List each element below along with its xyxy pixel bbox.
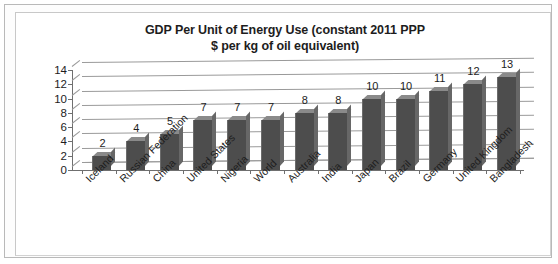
chart-page: GDP Per Unit of Energy Use (constant 201… (0, 0, 558, 264)
bar-value-label: 8 (302, 94, 308, 106)
bar-value-label: 2 (100, 137, 106, 149)
y-axis-tick-label: 10 (45, 94, 67, 104)
bar-side-face (381, 90, 385, 166)
bar-value-label: 8 (335, 94, 341, 106)
x-axis-tick-mark (82, 170, 83, 174)
y-axis-tick-mark (68, 127, 73, 128)
x-axis-tick-mark (183, 170, 184, 174)
x-axis-tick-mark (116, 170, 117, 174)
bar-value-label: 4 (133, 122, 139, 134)
y-axis-tick-label: 14 (45, 65, 67, 75)
x-axis-tick-mark (419, 170, 420, 174)
y-axis-tick-label: 12 (45, 79, 67, 89)
x-axis-tick-mark (284, 170, 285, 174)
bar-value-label: 7 (201, 101, 207, 113)
bar-value-label: 13 (501, 58, 513, 70)
bar-value-label: 12 (467, 65, 479, 77)
bar-value-label: 7 (234, 101, 240, 113)
gridline (82, 72, 534, 77)
x-axis-tick-mark (385, 170, 386, 174)
x-axis-tick-mark (486, 170, 487, 174)
y-axis-tick-mark (68, 84, 73, 85)
x-axis-tick-mark (149, 170, 150, 174)
y-axis-tick-label: 4 (45, 136, 67, 146)
x-axis-tick-mark (318, 170, 319, 174)
bar-side-face (347, 104, 351, 166)
y-axis-tick-mark (68, 170, 73, 171)
x-axis-tick-mark (453, 170, 454, 174)
bar-side-face (280, 112, 284, 166)
chart-title-line-1: GDP Per Unit of Energy Use (constant 201… (60, 22, 510, 38)
bar-value-label: 7 (268, 101, 274, 113)
x-axis-tick-mark (250, 170, 251, 174)
y-axis-tick-label: 6 (45, 122, 67, 132)
chart-title: GDP Per Unit of Energy Use (constant 201… (60, 22, 510, 54)
y-axis-tick-mark (68, 156, 73, 157)
x-axis-tick-mark (217, 170, 218, 174)
bar-value-label: 10 (366, 80, 378, 92)
y-axis-tick-label: 2 (45, 151, 67, 161)
x-axis-tick-mark (520, 170, 521, 174)
chart-title-line-2: $ per kg of oil equivalent) (60, 38, 510, 54)
y-axis-tick-mark (68, 99, 73, 100)
bar-value-label: 11 (434, 72, 445, 84)
bar-value-label: 10 (400, 80, 412, 92)
y-axis-tick-mark (68, 113, 73, 114)
y-axis-tick-label: 0 (45, 165, 67, 175)
x-axis-category-labels: IcelandRussian FederationChinaUnited Sta… (72, 176, 542, 256)
bar-side-face (415, 90, 419, 166)
y-axis-tick-label: 8 (45, 108, 67, 118)
bar-side-face (179, 126, 183, 166)
y-axis-tick-mark (68, 141, 73, 142)
x-axis-tick-mark (352, 170, 353, 174)
y-axis-tick-mark (68, 70, 73, 71)
